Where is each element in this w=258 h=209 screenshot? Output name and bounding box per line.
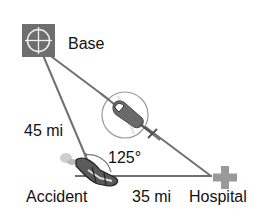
triangle-diagram: Base 45 mi 125° Accident 35 mi Hospital xyxy=(0,0,258,209)
diagram-graphics xyxy=(0,0,258,209)
label-angle: 125° xyxy=(108,150,141,166)
label-hospital: Hospital xyxy=(189,189,247,205)
label-side-accident-hospital: 35 mi xyxy=(132,189,171,205)
label-accident: Accident xyxy=(26,189,87,205)
helicopter-icon xyxy=(100,92,160,140)
medical-cross-icon xyxy=(213,166,237,189)
crosshair-square-icon xyxy=(22,24,55,57)
label-base: Base xyxy=(68,36,104,52)
label-side-base-accident: 45 mi xyxy=(24,123,63,139)
angle-arrow-icon xyxy=(83,152,88,158)
